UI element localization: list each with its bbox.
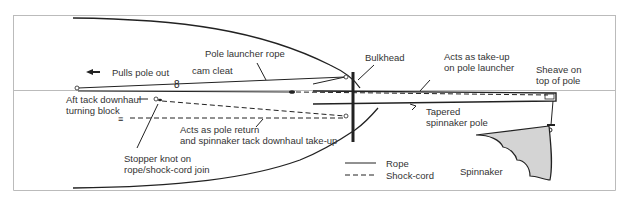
legend-shock-cord-label: Shock-cord [386, 170, 434, 181]
label-spinnaker: Spinnaker [460, 166, 503, 177]
label-sheave: Sheave on top of pole [536, 64, 581, 86]
label-stopper-knot: Stopper knot on rope/shock-cord join [124, 153, 210, 175]
label-aft-tack: Aft tack downhaul turning block [66, 94, 141, 116]
label-cam-cleat: cam cleat [192, 65, 233, 76]
label-pulls-pole-out: Pulls pole out [112, 67, 169, 78]
halyard [551, 101, 553, 125]
cam-cleat-icon: 8 [174, 79, 180, 90]
rope-inside [78, 91, 290, 92]
label-acts-takeup: Acts as take-up on pole launcher [444, 51, 514, 73]
stopper-knot [289, 90, 295, 94]
spinnaker-pole [313, 91, 556, 104]
diagram-border [14, 16, 616, 91]
rope-launcher-pointer [257, 63, 266, 80]
label-pole-launcher-rope: Pole launcher rope [205, 48, 285, 59]
label-tapered-pole: Tapered spinnaker pole [426, 106, 488, 128]
legend-rope-label: Rope [386, 158, 409, 169]
bulkhead-pointer [358, 65, 374, 80]
turning-block [154, 97, 158, 101]
arrow-left-icon [86, 69, 100, 75]
pole-launcher-rope [78, 77, 345, 88]
label-pole-return: Acts as pole return and spinnaker tack d… [180, 124, 337, 146]
tapered-pointer [410, 104, 416, 110]
takeup-pointer [420, 80, 430, 91]
label-bulkhead: Bulkhead [365, 52, 405, 63]
